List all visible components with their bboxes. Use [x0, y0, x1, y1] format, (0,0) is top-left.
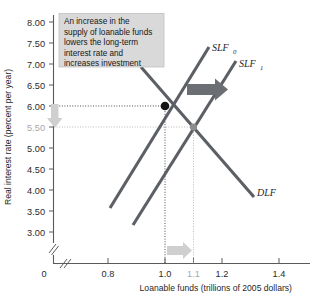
y-tick-label: 6.00 — [27, 102, 45, 112]
callout-line-4: interest rate and — [64, 49, 124, 58]
y-tick-label: 6.50 — [27, 81, 45, 91]
y-tick-label: 5.50 — [27, 123, 45, 133]
curve-label-slf1-subscript: 1 — [260, 64, 263, 71]
x-axis-title: Loanable funds (trillions of 2005 dollar… — [140, 283, 293, 293]
y-tick-label: 4.50 — [27, 165, 45, 175]
x-tick-label: 0.8 — [102, 269, 115, 279]
x-tick-label: 1.2 — [216, 269, 229, 279]
x-tick-label: 1.0 — [159, 269, 172, 279]
curve-label-slf1-base: SLF — [239, 58, 257, 69]
y-tick-label: 3.50 — [27, 207, 45, 217]
loanable-funds-market-chart: Real interest rate (percent per year) — [0, 0, 318, 300]
callout-line-3: lowers the long-term — [64, 38, 138, 47]
y-tick-label: 4.00 — [27, 186, 45, 196]
equilibrium-point-initial — [161, 102, 170, 111]
y-tick-label: 7.50 — [27, 39, 45, 49]
y-tick-label: 7.00 — [27, 60, 45, 70]
curve-label-slf0-base: SLF — [212, 42, 230, 53]
y-tick-label: 8.00 — [27, 18, 45, 28]
equilibrium-point-new — [190, 123, 197, 130]
curve-label-dlf: DLF — [256, 187, 277, 198]
callout-line-1: An increase in the — [64, 17, 130, 26]
callout-line-5: increases investment — [64, 59, 142, 68]
callout-line-2: supply of loanable funds — [64, 28, 152, 37]
y-tick-label: 5.00 — [27, 144, 45, 154]
y-tick-label: 3.00 — [27, 228, 45, 238]
x-tick-label: 1.1 — [187, 269, 200, 279]
x-tick-label: 1.4 — [273, 269, 286, 279]
y-axis-title: Real interest rate (percent per year) — [3, 69, 13, 205]
x-tick-label: 0 — [41, 269, 46, 279]
